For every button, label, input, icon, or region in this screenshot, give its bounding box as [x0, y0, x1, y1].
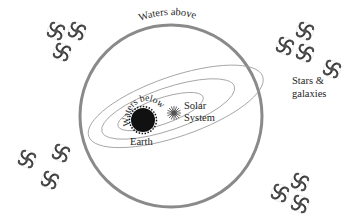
galaxy-icon [324, 61, 341, 78]
sun-icon [167, 106, 181, 120]
galaxy-icon [53, 145, 70, 162]
earth-icon [130, 107, 157, 134]
galaxy-cluster-top-left [48, 23, 86, 61]
galaxy-icon [48, 23, 65, 40]
galaxy-icon [297, 23, 314, 40]
galaxy-icon [42, 172, 59, 189]
galaxy-cluster-top-right [277, 23, 341, 78]
waters-above-label: Waters above [137, 6, 198, 23]
galaxy-icon [277, 38, 294, 55]
stars-galaxies-label-line1: Stars & [292, 75, 324, 86]
orbits [79, 48, 273, 165]
galaxy-cluster-bottom-left [19, 145, 70, 189]
galaxy-icon [69, 23, 86, 40]
galaxy-cluster-bottom-right [272, 174, 309, 213]
galaxy-icon [292, 196, 309, 213]
cosmology-diagram: Waters above Waters below Earth Solar Sy… [0, 0, 363, 224]
galaxy-icon [54, 44, 71, 61]
galaxy-icon [272, 185, 289, 202]
solar-system-label-line2: System [184, 112, 215, 123]
earth-label: Earth [130, 136, 153, 147]
galaxy-icon [297, 45, 314, 62]
solar-system-label-line1: Solar [184, 100, 207, 111]
galaxy-icon [292, 174, 309, 191]
stars-galaxies-label-line2: galaxies [292, 88, 326, 99]
galaxy-icon [19, 151, 36, 168]
